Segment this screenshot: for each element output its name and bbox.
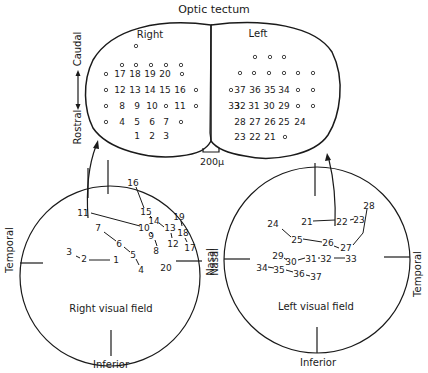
field-point-label: 4: [138, 265, 144, 275]
field-point-label: 32: [320, 254, 331, 264]
tectum-site-label: 10: [146, 101, 158, 111]
unresponsive-site-icon: [283, 135, 286, 138]
field-point-label: 5: [130, 250, 136, 260]
tectum-site-label: 24: [294, 117, 306, 127]
field-point-label: 35: [273, 265, 284, 275]
unresponsive-site-icon: [296, 71, 299, 74]
field-point-label: 6: [116, 239, 122, 249]
tectum-site-label: 4: [119, 117, 125, 127]
figure-title: Optic tectum: [178, 3, 250, 16]
right-field-inferior-label: Inferior: [93, 359, 130, 370]
tectum-site-label: 5: [134, 117, 140, 127]
tectum-site-label: 15: [159, 85, 170, 95]
unresponsive-site-icon: [194, 88, 197, 91]
tectum-site-label: 14: [144, 85, 156, 95]
unresponsive-site-icon: [120, 63, 123, 66]
right-field-title: Right visual field: [69, 303, 152, 314]
connector-line: [76, 256, 80, 258]
left-projection-arrow: [329, 160, 335, 226]
tectum-site-label: 18: [129, 69, 141, 79]
unresponsive-site-icon: [252, 71, 255, 74]
connector-line: [353, 233, 363, 245]
field-point-label: 29: [272, 251, 284, 261]
field-point-label: 37: [310, 272, 321, 282]
tectum-site-label: 1: [134, 131, 140, 141]
unresponsive-site-icon: [253, 55, 256, 58]
left-field-temporal-label: Temporal: [412, 251, 423, 298]
tectum-site-label: 16: [174, 85, 186, 95]
field-point-label: 3: [66, 247, 72, 257]
scale-label: 200μ: [200, 156, 224, 167]
connector-line: [124, 247, 130, 252]
tectum-site-label: 19: [144, 69, 156, 79]
field-point-label: 25: [291, 235, 302, 245]
field-point-label: 17: [184, 243, 195, 253]
tectum-site-label: 28: [234, 117, 246, 127]
field-point-label: 13: [164, 223, 175, 233]
unresponsive-site-icon: [180, 72, 183, 75]
field-point-label: 36: [293, 269, 305, 279]
unresponsive-site-icon: [282, 55, 285, 58]
connector-line: [104, 232, 116, 241]
unresponsive-site-icon: [179, 120, 182, 123]
arrow-down-icon: [76, 104, 81, 110]
rostral-caudal-axis: Caudal Rostral: [72, 32, 83, 145]
left-field-perimeter: [224, 167, 410, 353]
field-point-label: 12: [167, 239, 178, 249]
field-point-label: 1: [113, 255, 119, 265]
tectum-site-label: 31: [248, 101, 259, 111]
unresponsive-site-icon: [164, 104, 167, 107]
connector-line: [298, 258, 305, 260]
field-point-label: 15: [140, 207, 151, 217]
field-point-label: 7: [95, 223, 101, 233]
connector-line: [171, 233, 172, 238]
tectum-site-label: 36: [249, 85, 261, 95]
tectum-site-label: 30: [263, 101, 275, 111]
rostral-label: Rostral: [72, 110, 83, 145]
unresponsive-site-icon: [104, 88, 107, 91]
tectum-site-label: 7: [163, 117, 169, 127]
tectum-site-label: 22: [249, 132, 260, 142]
field-point-label: 30: [285, 257, 297, 267]
tectum-site-label: 12: [114, 85, 125, 95]
unresponsive-site-icon: [311, 88, 314, 91]
tectum-site-label: 13: [129, 85, 140, 95]
tectum-left-label: Left: [249, 28, 268, 39]
field-point-label: 22: [336, 217, 347, 227]
tectum-site-label: 21: [264, 132, 275, 142]
unresponsive-site-icon: [267, 71, 270, 74]
field-point-label: 16: [127, 178, 139, 188]
field-point-label: 27: [340, 243, 351, 253]
connector-line: [334, 246, 339, 248]
arrow-up-icon: [76, 70, 81, 76]
tectum-site-label: 8: [119, 101, 125, 111]
field-point-label: 28: [363, 201, 375, 211]
left-field-points: 2122232425262728293031323334353637: [256, 201, 375, 282]
arrow-head-icon: [325, 153, 331, 161]
connector-line: [303, 239, 322, 242]
connector-line: [159, 223, 164, 227]
left-field-nasal-label: Nasal: [209, 248, 220, 276]
arrow-head-icon: [93, 140, 99, 149]
tectum-site-label: 29: [278, 101, 290, 111]
connector-line: [136, 187, 144, 208]
left-field-inferior-label: Inferior: [300, 357, 337, 368]
field-point-label: 33: [345, 254, 356, 264]
unresponsive-site-icon: [311, 71, 314, 74]
connector-line: [185, 238, 187, 242]
unresponsive-site-icon: [134, 63, 137, 66]
tectum-site-label: 3: [163, 131, 169, 141]
field-point-label: 19: [173, 212, 185, 222]
tectum-site-label: 20: [159, 69, 171, 79]
unresponsive-site-icon: [268, 55, 271, 58]
tectum-site-label: 35: [264, 85, 275, 95]
left-visual-field: Nasal Temporal Inferior Left visual fiel…: [209, 163, 423, 368]
unresponsive-site-icon: [311, 104, 314, 107]
field-point-label: 31: [305, 254, 316, 264]
field-point-label: 26: [322, 238, 334, 248]
unresponsive-site-icon: [164, 63, 167, 66]
tectum-site-label: 23: [234, 132, 245, 142]
unresponsive-site-icon: [229, 88, 232, 91]
field-point-label: 2: [81, 254, 87, 264]
field-point-label: 18: [177, 228, 189, 238]
